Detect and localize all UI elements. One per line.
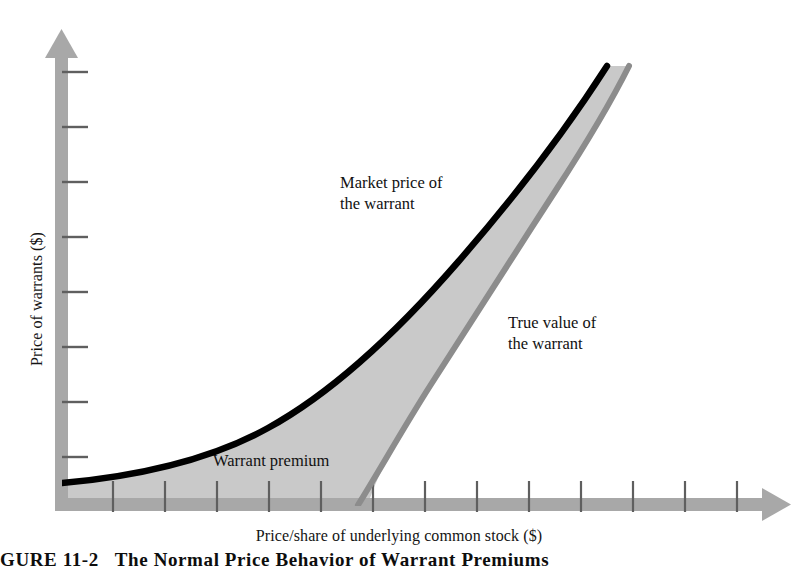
annotation-market-price: Market price of the warrant bbox=[340, 172, 443, 214]
figure-caption-text: The Normal Price Behavior of Warrant Pre… bbox=[115, 549, 549, 570]
x-axis-shaft bbox=[55, 498, 773, 511]
figure-caption: GURE 11-2The Normal Price Behavior of Wa… bbox=[0, 549, 798, 570]
figure-caption-number: GURE 11-2 bbox=[0, 549, 99, 570]
warrant-premium-region bbox=[62, 66, 629, 505]
y-axis-shaft bbox=[55, 46, 68, 508]
annotation-true-value: True value of the warrant bbox=[508, 312, 596, 354]
annotation-warrant-premium: Warrant premium bbox=[213, 450, 329, 471]
y-axis-arrowhead bbox=[45, 29, 78, 58]
y-axis-title: Price of warrants ($) bbox=[28, 184, 46, 414]
x-axis-title: Price/share of underlying common stock (… bbox=[0, 527, 798, 545]
x-axis-arrowhead bbox=[762, 488, 791, 521]
